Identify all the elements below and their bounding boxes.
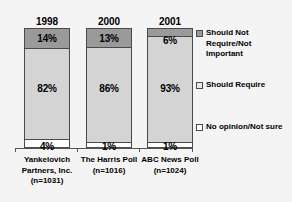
segment-label-should-not-require-3: 6% [148,35,192,46]
legend-item-no-opinion[interactable]: No opinion/Not sure [196,122,282,133]
segment-label-should-not-require-1: 14% [25,33,69,44]
legend-label-no-opinion: No opinion/Not sure [206,122,282,133]
plot-area: 1998 14% 82% 4% Yankelovich Partners, In… [0,0,200,202]
bar-column-2[interactable]: 13% 86% 1% [86,28,132,148]
segment-label-should-require-3: 93% [148,83,192,94]
bar-year-label-2: 2000 [79,16,139,27]
x-axis-tick [192,148,193,152]
segment-should-require-1 [25,49,69,139]
legend-label-should-not-require: Should Not Require/Not Important [206,28,251,60]
x-axis-tick [139,148,140,152]
legend-swatch-icon-should-require [196,82,203,89]
stacked-bar-chart: 1998 14% 82% 4% Yankelovich Partners, In… [0,0,292,202]
bar-column-3[interactable]: 6% 93% 1% [147,28,193,148]
segment-label-should-require-1: 82% [25,83,69,94]
x-axis-tick [15,148,16,152]
bar-year-label-1: 1998 [17,16,77,27]
segment-label-no-opinion-2: 1% [87,141,131,152]
legend-swatch-icon-should-not-require [196,30,203,37]
segment-label-should-require-2: 86% [87,83,131,94]
legend-swatch-icon-no-opinion [196,124,203,131]
legend-item-should-not-require[interactable]: Should Not Require/Not Important [196,28,251,60]
bar-column-1[interactable]: 14% 82% 4% [24,28,70,148]
x-axis-tick [77,148,78,152]
bar-caption-3: ABC News Poll (n=1024) [131,155,209,176]
segment-should-require-2 [87,48,131,142]
segment-label-no-opinion-3: 1% [148,141,192,152]
bar-year-label-3: 2001 [140,16,200,27]
segment-label-should-not-require-2: 13% [87,33,131,44]
segment-label-no-opinion-1: 4% [25,141,69,152]
legend-label-should-require: Should Require [206,80,265,91]
legend-item-should-require[interactable]: Should Require [196,80,265,91]
